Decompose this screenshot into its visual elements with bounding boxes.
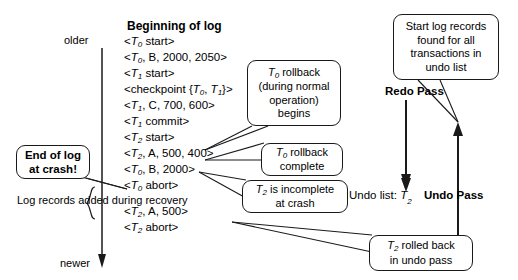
callout-t2-rolled-back-in-undo-pass: T2 rolled back in undo pass [369, 235, 473, 271]
callout-end-of-log-at-crash: End of log at crash! [16, 145, 90, 179]
undo-list-label: Undo list: T2 [349, 190, 412, 204]
log-entry-t0-b-compensation: <T0, B, 2000> [124, 161, 274, 177]
log-entry-t2-a-update: <T2, A, 500, 400> [124, 145, 274, 161]
recovery-records-note: Log records added during recovery [17, 193, 95, 207]
log-entry-t0-start: <T0 start> [124, 33, 274, 49]
log-timeline-axis [98, 48, 106, 268]
callout-t0-rollback-complete: T0 rollback complete [261, 143, 343, 176]
redo-pass-label: Redo Pass [385, 86, 444, 98]
log-heading: Beginning of log [127, 20, 222, 32]
callout-t2-incomplete-at-crash: T2 is incomplete at crash [242, 180, 348, 213]
callout-t0-rollback-begins: T0 rollback (during normal operation) be… [247, 60, 341, 126]
diagram-canvas: older newer Beginning of log <T0 start> … [0, 0, 518, 280]
callout-start-log-records-found: Start log records found for all transact… [393, 14, 499, 80]
axis-label-older: older [64, 35, 88, 46]
axis-label-newer: newer [60, 258, 90, 269]
log-entry-t2-abort: <T2 abort> [124, 219, 274, 235]
redo-pass-arrow [401, 100, 411, 188]
log-entry-t2-start: <T2 start> [124, 129, 274, 145]
undo-pass-label: Undo Pass [424, 190, 483, 202]
